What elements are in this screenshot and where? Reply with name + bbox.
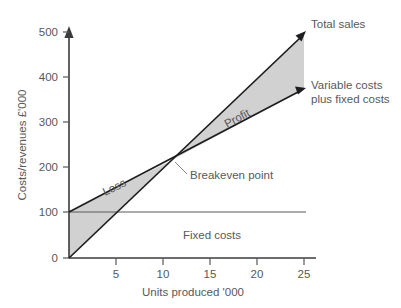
breakeven-chart-figure: 500 400 300 200 100 0 5 10 15 20 25 Loss…: [0, 0, 401, 308]
y-tick-label-100: 100: [39, 206, 58, 218]
variable-costs-label-line1: Variable costs: [311, 79, 383, 91]
total-sales-line: [69, 37, 301, 258]
x-tick-label-25: 25: [298, 268, 311, 280]
y-tick-label-200: 200: [39, 161, 58, 173]
fixed-costs-label: Fixed costs: [183, 229, 241, 241]
x-tick-label-15: 15: [204, 268, 217, 280]
x-axis-title: Units produced '000: [142, 286, 244, 298]
variable-costs-label-line2: plus fixed costs: [311, 93, 390, 105]
y-tick-label-500: 500: [39, 26, 58, 38]
y-axis-title: Costs/revenues £'000: [16, 90, 28, 201]
x-tick-label-10: 10: [157, 268, 170, 280]
y-tick-label-0: 0: [52, 252, 58, 264]
breakeven-point-label: Breakeven point: [190, 169, 274, 181]
y-tick-label-400: 400: [39, 71, 58, 83]
chart-canvas: 500 400 300 200 100 0 5 10 15 20 25 Loss…: [0, 0, 401, 308]
total-sales-label: Total sales: [311, 18, 366, 30]
breakeven-leader-line: [175, 162, 187, 174]
y-tick-label-300: 300: [39, 116, 58, 128]
x-tick-label-20: 20: [251, 268, 264, 280]
x-tick-label-5: 5: [113, 268, 119, 280]
